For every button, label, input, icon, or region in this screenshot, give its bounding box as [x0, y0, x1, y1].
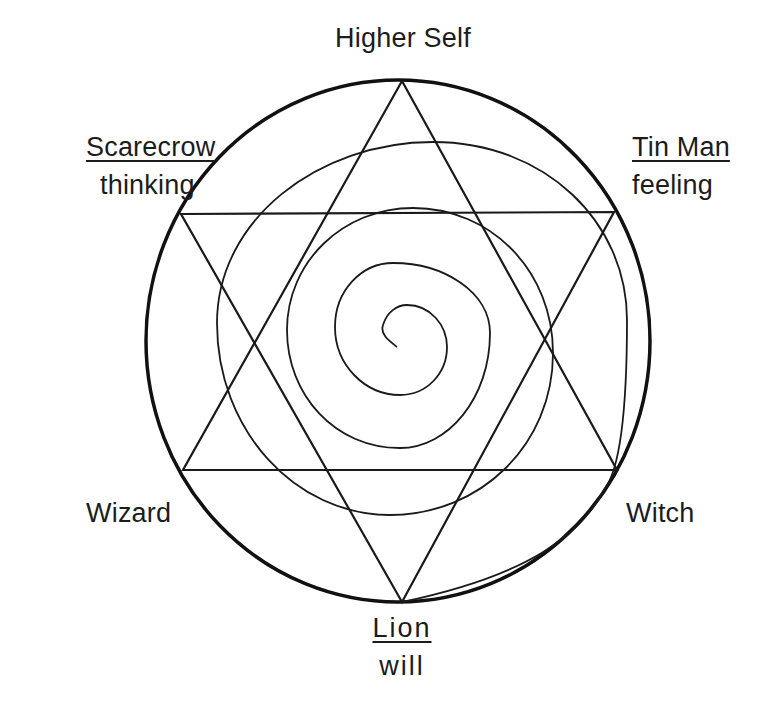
wizard-name: Wizard	[86, 498, 171, 528]
spiral	[217, 142, 627, 602]
label-scarecrow: Scarecrow thinking	[86, 131, 215, 201]
higher-self-text: Higher Self	[335, 23, 471, 53]
scarecrow-name: Scarecrow	[86, 131, 215, 163]
witch-name: Witch	[626, 498, 695, 528]
downward-triangle	[181, 212, 614, 602]
lion-name: Lion	[340, 612, 464, 644]
lion-quality: will	[340, 650, 464, 682]
hexagram-spiral-diagram	[0, 0, 777, 717]
label-wizard: Wizard	[86, 497, 171, 529]
label-tin-man: Tin Man feeling	[632, 131, 730, 201]
outer-circle	[146, 80, 650, 602]
label-lion: Lion will	[340, 612, 464, 682]
label-witch: Witch	[626, 497, 695, 529]
scarecrow-quality: thinking	[86, 169, 215, 201]
tin-man-quality: feeling	[632, 169, 730, 201]
label-higher-self: Higher Self	[313, 22, 493, 54]
tin-man-name: Tin Man	[632, 131, 730, 163]
upward-triangle	[183, 81, 617, 470]
